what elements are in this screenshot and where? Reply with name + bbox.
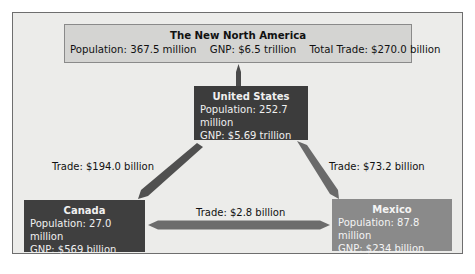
canada-population: Population: 27.0 million [24,217,145,243]
canada-gnp: GNP: $569 billion [24,243,145,256]
canada-box: Canada Population: 27.0 million GNP: $56… [24,200,145,252]
summary-title: The New North America [65,29,411,43]
us-name: United States [194,90,308,103]
summary-population: Population: 367.5 million [70,44,197,55]
mexico-name: Mexico [332,203,452,216]
mexico-population: Population: 87.8 million [332,216,452,242]
united-states-box: United States Population: 252.7 million … [194,86,308,140]
trade-label-us-canada: Trade: $194.0 billion [52,161,154,172]
trade-label-canada-mexico: Trade: $2.8 billion [196,207,285,218]
north-america-summary-box: The New North America Population: 367.5 … [64,24,412,63]
mexico-box: Mexico Population: 87.8 million GNP: $23… [332,199,452,251]
canada-name: Canada [24,204,145,217]
us-gnp: GNP: $5.69 trillion [194,129,308,142]
us-population: Population: 252.7 million [194,103,308,129]
summary-total-trade: Total Trade: $270.0 billion [310,44,441,55]
mexico-gnp: GNP: $234 billion [332,242,452,255]
arrow-us-to-north-america [236,64,241,86]
summary-gnp: GNP: $6.5 trillion [210,44,296,55]
trade-label-us-mexico: Trade: $73.2 billion [329,161,425,172]
arrow-canada-mexico [148,221,330,230]
